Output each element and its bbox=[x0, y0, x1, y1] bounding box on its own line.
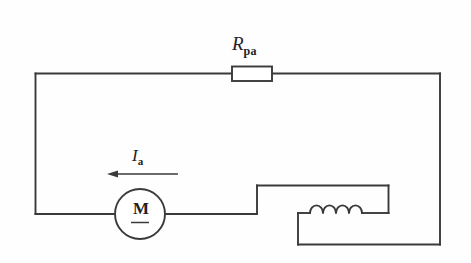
circuit-diagram-figure: Rpa Ia M bbox=[0, 0, 471, 263]
field-coil-icon bbox=[310, 205, 362, 213]
current-label: Ia bbox=[132, 147, 143, 167]
resistor-symbol: R bbox=[232, 33, 244, 54]
current-arrow-head-icon bbox=[107, 171, 118, 178]
resistor-subscript: pa bbox=[244, 44, 257, 58]
resistor-label: Rpa bbox=[232, 34, 257, 57]
motor-label: M bbox=[133, 200, 149, 217]
current-subscript: a bbox=[138, 155, 144, 167]
resistor-icon bbox=[232, 67, 272, 82]
